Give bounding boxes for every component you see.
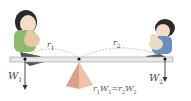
- seesaw-board: [10, 57, 173, 62]
- w1-label: W1: [8, 71, 22, 85]
- fulcrum-right-face: [79, 62, 93, 89]
- w1-arrow-icon: [23, 60, 28, 90]
- boy-figure: [146, 19, 175, 62]
- pivot-point: [77, 57, 80, 60]
- w2-label: W2: [149, 73, 163, 87]
- fulcrum-left-face: [66, 62, 79, 89]
- r1-label: r1: [47, 40, 55, 53]
- balance-equation: r1W1=r2W2: [93, 84, 137, 95]
- r2-label: r2: [113, 38, 121, 51]
- w2-arrow-icon: [163, 60, 168, 82]
